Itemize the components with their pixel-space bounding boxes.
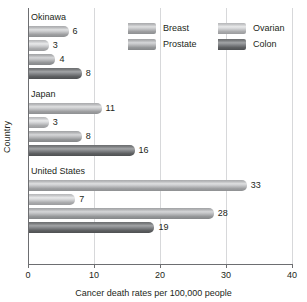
bar-value-label: 33: [251, 180, 261, 191]
bar: [29, 26, 69, 37]
group-label: United States: [30, 166, 87, 177]
legend-label: Prostate: [163, 39, 197, 49]
bar-value-label: 16: [139, 145, 149, 156]
bar: [29, 208, 214, 219]
bar: [29, 194, 75, 205]
chart-legend: BreastProstateOvarianColon: [128, 22, 298, 54]
bar-value-label: 6: [73, 26, 78, 37]
x-axis-tick-label: 30: [214, 270, 238, 280]
bar-value-label: 8: [86, 131, 91, 142]
bar: [29, 180, 247, 191]
bar: [29, 40, 49, 51]
legend-swatch-ovarian: [218, 23, 246, 34]
bar: [29, 117, 49, 128]
bar: [29, 222, 154, 233]
bar-value-label: 19: [158, 222, 168, 233]
legend-swatch-prostate: [128, 39, 156, 50]
x-axis-label-text: Cancer death rates per 100,000 people: [75, 288, 232, 298]
bar-value-label: 7: [79, 194, 84, 205]
bar: [29, 54, 55, 65]
legend-item[interactable]: Colon: [218, 38, 277, 50]
legend-label: Breast: [163, 23, 189, 33]
bar: [29, 103, 102, 114]
x-axis-tick: [226, 264, 227, 268]
x-axis-tick: [160, 264, 161, 268]
bar-value-label: 3: [53, 117, 58, 128]
y-axis-label: Country: [2, 106, 14, 168]
bar-value-label: 28: [218, 208, 228, 219]
legend-item[interactable]: Breast: [128, 22, 189, 34]
legend-item[interactable]: Prostate: [128, 38, 197, 50]
bar: [29, 145, 135, 156]
bar-value-label: 3: [53, 40, 58, 51]
bar-value-label: 4: [59, 54, 64, 65]
legend-swatch-colon: [218, 39, 246, 50]
bar: [29, 131, 82, 142]
bar-value-label: 11: [106, 103, 115, 114]
group-label: Japan: [30, 89, 58, 100]
x-axis-tick: [28, 264, 29, 268]
legend-swatch-breast: [128, 23, 156, 34]
group-label: Okinawa: [30, 12, 68, 23]
legend-label: Ovarian: [253, 23, 285, 33]
x-axis-tick: [292, 264, 293, 268]
x-axis-tick-label: 10: [82, 270, 106, 280]
x-axis-tick-label: 20: [148, 270, 172, 280]
x-axis-tick-label: 0: [16, 270, 40, 280]
legend-label: Colon: [253, 39, 277, 49]
bar-chart: Country 63481138163372819 OkinawaJapanUn…: [0, 0, 307, 302]
x-axis-tick: [94, 264, 95, 268]
bar-value-label: 8: [86, 68, 91, 79]
legend-item[interactable]: Ovarian: [218, 22, 285, 34]
x-axis-label: Cancer death rates per 100,000 people: [0, 288, 307, 298]
bar: [29, 68, 82, 79]
x-axis-tick-label: 40: [280, 270, 304, 280]
